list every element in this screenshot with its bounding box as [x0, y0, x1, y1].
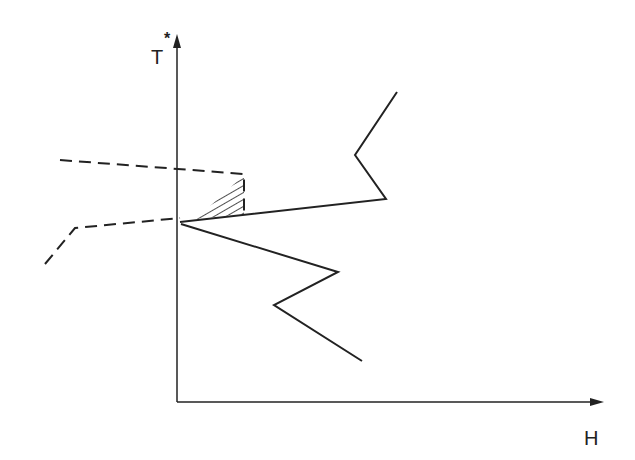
lower-dashed-curve: [45, 218, 180, 264]
upper-solid-curve: [180, 92, 397, 222]
hatched-region: [196, 175, 244, 219]
axes: T * H: [151, 30, 604, 449]
y-axis-arrow-icon: [173, 34, 181, 48]
x-axis-label: H: [584, 427, 598, 449]
diagram: T * H: [0, 0, 635, 460]
y-axis-label-superscript: *: [164, 30, 171, 47]
x-axis-arrow-icon: [590, 398, 604, 406]
y-axis-label: T: [151, 46, 163, 68]
lower-solid-curve: [181, 224, 362, 361]
